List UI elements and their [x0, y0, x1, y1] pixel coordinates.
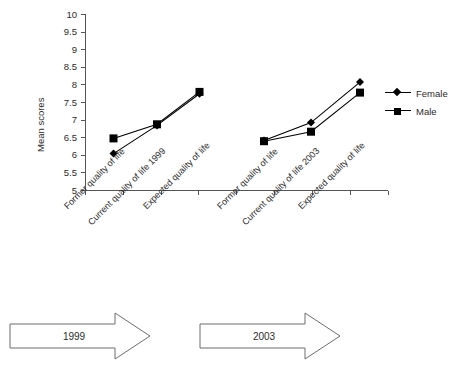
chart-plot-area: 10 9.5 9 8.5 8 7.5 7 6.5 6 5.5 5: [0, 0, 472, 290]
arrows-svg: 1999 2003: [0, 296, 472, 373]
y-tick-label: 7: [72, 114, 77, 125]
y-tick-label: 10: [66, 9, 77, 20]
y-tick-label: 8.5: [64, 61, 77, 72]
arrow-1999-label: 1999: [63, 331, 86, 342]
legend-label-male: Male: [411, 106, 437, 117]
y-tick-label: 6.5: [64, 132, 77, 143]
marker-male: [356, 89, 364, 97]
marker-male: [307, 128, 315, 136]
y-tick-label: 9: [72, 44, 77, 55]
square-marker-icon: [385, 104, 411, 118]
y-tick-label: 6: [72, 149, 77, 160]
legend-item-female: Female: [385, 84, 469, 102]
y-axis-title-text: Mean scores: [35, 62, 46, 152]
y-tick-label: 9.5: [64, 26, 77, 37]
data-markers-2003: [260, 78, 364, 145]
y-tick-label: 5.5: [64, 167, 77, 178]
y-axis-title: Mean scores: [23, 0, 34, 62]
y-tick-label: 7.5: [64, 97, 77, 108]
diamond-marker-icon: [385, 86, 411, 100]
chart-legend: Female Male: [385, 84, 469, 120]
legend-item-male: Male: [385, 102, 469, 120]
timeline-arrows: 1999 2003: [0, 296, 472, 373]
arrow-2003-label: 2003: [253, 331, 276, 342]
y-tick-marks: [81, 15, 86, 191]
quality-of-life-figure: 10 9.5 9 8.5 8 7.5 7 6.5 6 5.5 5: [0, 0, 472, 373]
series-line-male-1999: [114, 92, 200, 138]
marker-male: [110, 134, 118, 142]
y-tick-label: 8: [72, 79, 77, 90]
x-axis-category-labels: Former quality of life Current quality o…: [0, 190, 472, 285]
legend-label-female: Female: [411, 88, 448, 99]
